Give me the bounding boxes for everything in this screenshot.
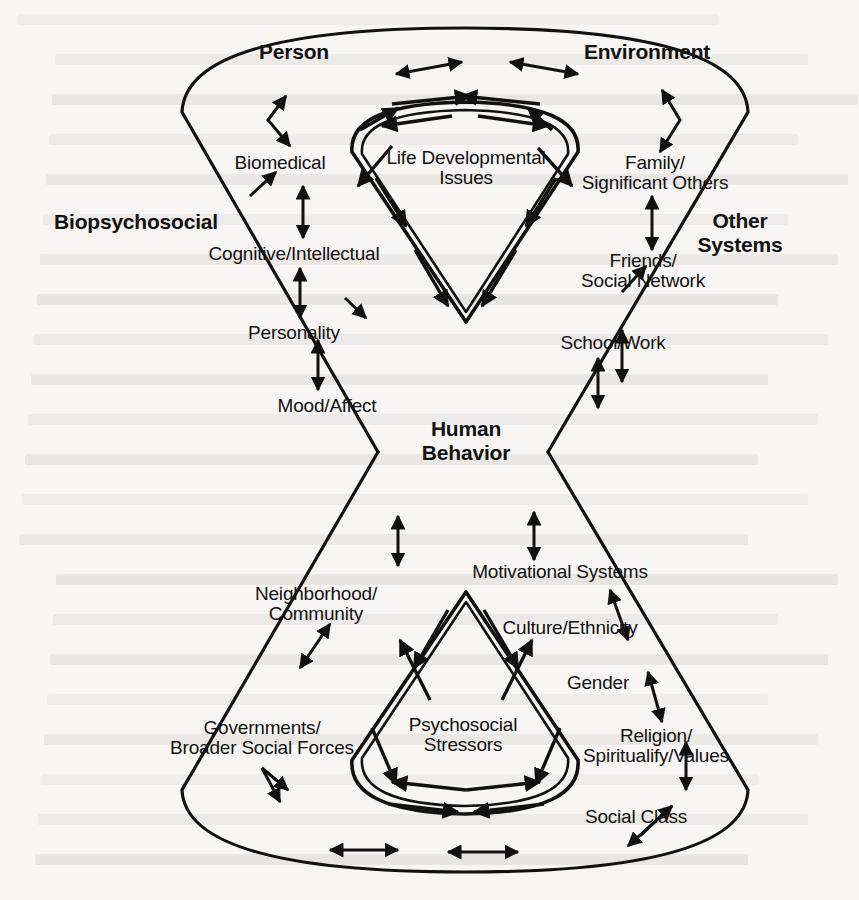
heading-biopsychosocial: Biopsychosocial [54, 211, 218, 233]
figure-page: Person Environment Biopsychosocial Other… [0, 0, 859, 900]
biopsychosocial-item-neighborhood-community: Neighborhood/ Community [255, 584, 377, 624]
person-item-personality: Personality [248, 323, 340, 343]
environment-item-family-significant-others: Family/ Significant Others [582, 153, 728, 193]
heading-person: Person [259, 41, 329, 63]
heading-other-systems: Other Systems [698, 209, 783, 257]
biopsychosocial-connector-arrows [262, 516, 398, 802]
heading-human-behavior: Human Behavior [422, 417, 510, 465]
other-systems-item-culture-ethnicity: Culture/Ethnicity [503, 618, 638, 638]
other-systems-item-social-class: Social Class [585, 807, 687, 827]
environment-item-friends-social-network: Friends/ Social Network [581, 251, 705, 291]
person-item-mood-affect: Mood/Affect [278, 396, 377, 416]
other-systems-item-gender: Gender [567, 673, 629, 693]
person-item-cognitive-intellectual: Cognitive/Intellectual [209, 244, 380, 264]
inner-label-life-developmental-issues: Life Developmental Issues [386, 148, 545, 188]
top-band-arrows [396, 62, 578, 74]
other-systems-item-religion-spirituality-values: Religion/ Spiritualify/Values [583, 726, 729, 766]
heading-environment: Environment [584, 41, 710, 63]
inner-label-psychosocial-stressors: Psychosocial Stressors [409, 715, 517, 755]
inner-bottom-cone-arrows [372, 610, 560, 812]
environment-item-school-work: School/Work [560, 333, 665, 353]
other-systems-item-motivational-systems: Motivational Systems [472, 562, 648, 582]
bottom-band-arrows [330, 850, 518, 852]
biopsychosocial-item-governments-broader-social-forces: Governments/ Broader Social Forces [170, 718, 354, 758]
person-item-biomedical: Biomedical [235, 153, 326, 173]
inner-top-cone-arrows [358, 96, 572, 306]
